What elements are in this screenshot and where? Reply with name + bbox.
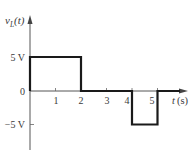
y-tick-label-5v: 5 V — [10, 52, 25, 63]
x-tick-label-5: 5 — [150, 95, 155, 106]
x-tick-label-1: 1 — [54, 95, 59, 106]
y-axis-arrow-icon — [28, 15, 33, 24]
x-tick-label-2: 2 — [79, 95, 84, 106]
y-tick-label-neg5v: −5 V — [5, 119, 26, 130]
y-axis-label: vL(t) — [5, 14, 25, 29]
x-axis-label: t(s) — [172, 95, 189, 107]
voltage-waveform-chart: vL(t) 5 V 0 −5 V 1 2 3 4 5 t(s) — [0, 0, 196, 156]
x-tick-label-3: 3 — [105, 95, 110, 106]
x-tick-label-4: 4 — [125, 95, 130, 106]
y-tick-label-0: 0 — [20, 86, 25, 97]
x-axis-arrow-icon — [179, 89, 188, 94]
